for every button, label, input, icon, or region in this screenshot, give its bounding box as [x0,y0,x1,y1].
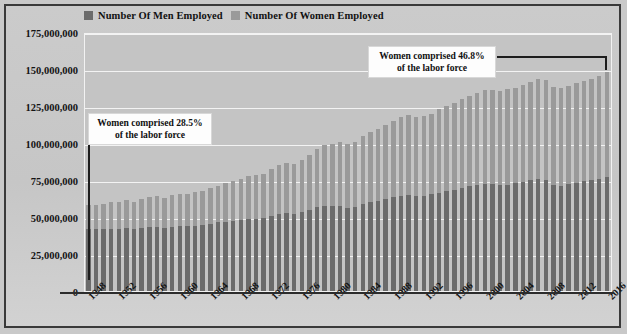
bar-segment-men [551,185,556,291]
bar-segment-women [269,169,274,215]
bar-2010[interactable] [559,88,564,291]
bar-1993[interactable] [429,114,434,291]
bar-1972[interactable] [269,169,274,291]
bar-series-group [85,34,611,291]
bar-1988[interactable] [391,121,396,291]
bar-segment-women [300,160,305,213]
bar-segment-women [544,80,549,180]
bar-1963[interactable] [200,191,205,291]
bar-2009[interactable] [551,87,556,291]
bar-2001[interactable] [490,90,495,291]
bar-1996[interactable] [452,103,457,291]
bar-2015[interactable] [597,76,602,291]
bar-segment-women [223,183,228,221]
bar-1991[interactable] [414,117,419,291]
bar-segment-women [94,205,99,230]
bar-segment-women [239,179,244,220]
legend-men[interactable]: Number Of Men Employed [84,10,223,21]
bar-1986[interactable] [376,129,381,291]
bar-1989[interactable] [399,117,404,291]
bar-1981[interactable] [338,142,343,291]
bar-segment-men [597,179,602,292]
bar-1962[interactable] [193,192,198,291]
bar-1957[interactable] [155,196,160,291]
bar-1995[interactable] [444,106,449,291]
bar-1960[interactable] [178,194,183,291]
bar-1955[interactable] [139,199,144,291]
bar-2004[interactable] [513,88,518,291]
bar-1959[interactable] [170,195,175,291]
bar-1958[interactable] [162,198,167,291]
bar-segment-men [490,184,495,291]
bar-2005[interactable] [521,85,526,291]
bar-segment-women [559,88,564,185]
bar-segment-men [208,224,213,291]
bar-1999[interactable] [475,93,480,291]
bar-2000[interactable] [483,90,488,291]
bar-segment-men [284,213,289,291]
bar-1965[interactable] [216,186,221,291]
bar-segment-women [132,202,137,229]
bar-1980[interactable] [330,144,335,291]
bar-1976[interactable] [300,160,305,291]
legend-women[interactable]: Number Of Women Employed [231,10,384,21]
bar-1966[interactable] [223,183,228,291]
bar-2014[interactable] [589,79,594,291]
bar-1990[interactable] [406,115,411,291]
bar-segment-men [483,184,488,291]
bar-1953[interactable] [124,200,129,291]
bar-1992[interactable] [422,116,427,291]
bar-2016[interactable] [605,72,610,291]
bar-1985[interactable] [368,132,373,291]
bar-2012[interactable] [574,83,579,291]
bar-1968[interactable] [239,179,244,291]
bar-2007[interactable] [536,79,541,291]
bar-1987[interactable] [383,125,388,291]
bar-1971[interactable] [261,174,266,291]
y-tick-label: 175,000,000 [26,28,79,39]
bar-2003[interactable] [505,89,510,291]
annotation-right-leader-horizontal [497,56,607,58]
bar-segment-women [467,96,472,186]
bar-2013[interactable] [582,81,587,291]
bar-2006[interactable] [528,82,533,291]
bar-segment-women [147,197,152,227]
bar-segment-women [437,109,442,193]
bar-1952[interactable] [117,202,122,291]
bar-2002[interactable] [498,91,503,291]
bar-1974[interactable] [284,163,289,291]
bar-segment-women [261,174,266,218]
bar-1950[interactable] [101,204,106,291]
bar-2011[interactable] [566,86,571,291]
bar-segment-women [551,87,556,185]
bar-1983[interactable] [353,142,358,291]
bar-1978[interactable] [315,149,320,291]
bar-segment-women [574,83,579,182]
bar-segment-men [391,197,396,291]
bar-1977[interactable] [307,155,312,291]
bar-1964[interactable] [208,188,213,291]
bar-1949[interactable] [94,205,99,291]
bar-1951[interactable] [109,202,114,291]
bar-segment-women [383,125,388,199]
bar-1979[interactable] [322,145,327,291]
bar-segment-women [391,121,396,198]
bar-segment-men [109,229,114,291]
bar-1984[interactable] [361,136,366,291]
bar-1954[interactable] [132,202,137,291]
bar-segment-men [345,208,350,291]
bar-1967[interactable] [231,181,236,291]
bar-1994[interactable] [437,109,442,291]
bar-1975[interactable] [292,164,297,291]
bar-1969[interactable] [246,176,251,291]
bar-1982[interactable] [345,144,350,291]
bar-segment-men [460,188,465,291]
bar-1961[interactable] [185,194,190,291]
bar-1998[interactable] [467,96,472,291]
bar-1973[interactable] [277,165,282,291]
bar-1956[interactable] [147,197,152,291]
bar-2008[interactable] [544,80,549,291]
bar-1970[interactable] [254,175,259,291]
bar-segment-men [315,207,320,291]
bar-1997[interactable] [460,99,465,291]
